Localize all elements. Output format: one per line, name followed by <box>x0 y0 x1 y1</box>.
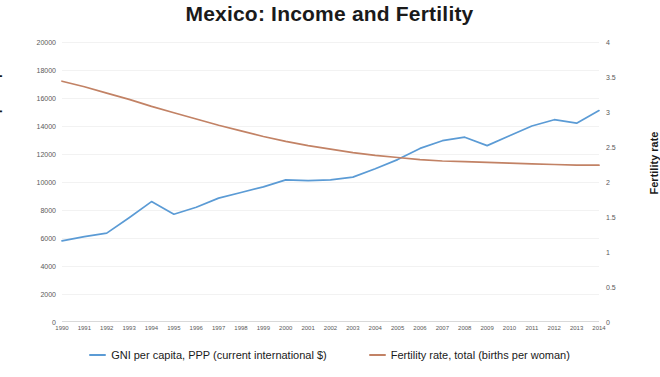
y-axis-right-tick-label: 2.5 <box>606 144 636 151</box>
series-line <box>62 81 599 165</box>
x-axis-tick-label: 2014 <box>579 325 619 331</box>
legend-item[interactable]: Fertility rate, total (births per woman) <box>369 349 570 361</box>
y-axis-left-tick-label: 16000 <box>8 95 56 102</box>
y-axis-right-tick-label: 2 <box>606 179 636 186</box>
y-axis-left-title: GNI per capita <box>0 12 2 182</box>
y-axis-left-tick-label: 6000 <box>8 235 56 242</box>
y-axis-left-tick-label: 4000 <box>8 263 56 270</box>
y-axis-left-tick-label: 20000 <box>8 39 56 46</box>
y-axis-right-title: Fertility rate <box>648 98 660 228</box>
chart-title: Mexico: Income and Fertility <box>0 2 659 26</box>
legend-label: GNI per capita, PPP (current internation… <box>111 349 327 361</box>
series-lines <box>62 42 599 322</box>
y-axis-right-tick-label: 1 <box>606 249 636 256</box>
y-axis-right-tick-label: 1.5 <box>606 214 636 221</box>
plot-area <box>62 42 599 322</box>
y-axis-right-tick-label: 4 <box>606 39 636 46</box>
y-axis-right-tick-label: 3.5 <box>606 74 636 81</box>
y-axis-left-tick-label: 8000 <box>8 207 56 214</box>
y-axis-right-tick-label: 3 <box>606 109 636 116</box>
y-axis-left-tick-label: 14000 <box>8 123 56 130</box>
chart-legend: GNI per capita, PPP (current internation… <box>0 349 659 361</box>
legend-item[interactable]: GNI per capita, PPP (current internation… <box>89 349 327 361</box>
y-axis-left-tick-label: 2000 <box>8 291 56 298</box>
series-line <box>62 111 599 241</box>
legend-color-swatch <box>369 354 386 356</box>
y-axis-left-tick-label: 18000 <box>8 67 56 74</box>
y-axis-left-tick-label: 10000 <box>8 179 56 186</box>
y-axis-left-tick-label: 12000 <box>8 151 56 158</box>
legend-color-swatch <box>89 354 106 356</box>
y-axis-right-tick-label: 0.5 <box>606 284 636 291</box>
legend-label: Fertility rate, total (births per woman) <box>391 349 570 361</box>
